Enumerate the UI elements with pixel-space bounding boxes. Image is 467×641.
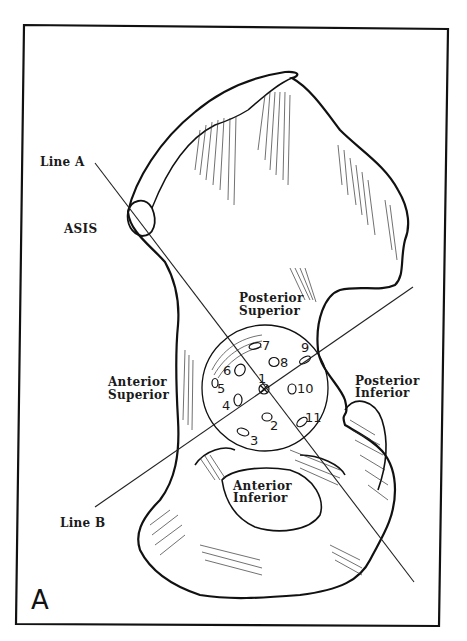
portal-10-label: 10 <box>297 381 314 396</box>
portal-8-label: 8 <box>280 355 288 370</box>
line-b-label: Line B <box>60 516 105 530</box>
portal-7-label: 7 <box>262 338 270 353</box>
portal-3-marker <box>236 427 250 438</box>
anterior-superior-label-1: Anterior <box>107 375 167 389</box>
acetabulum-diagram: 1 2 3 4 5 6 7 8 9 10 11 Line A ASIS Post… <box>0 0 467 641</box>
anterior-superior-label-2: Superior <box>108 388 169 402</box>
line-a <box>95 163 414 582</box>
portal-4-label: 4 <box>222 398 230 413</box>
posterior-superior-label-1: Posterior <box>239 291 304 305</box>
anterior-inferior-label-2: Inferior <box>233 491 288 505</box>
portal-4-marker <box>234 394 242 406</box>
portal-9-marker <box>298 354 311 365</box>
posterior-superior-label-2: Superior <box>239 304 300 318</box>
portal-2-label: 2 <box>270 418 278 433</box>
posterior-inferior-label-2: Inferior <box>355 386 410 400</box>
portal-11-label: 11 <box>305 410 322 425</box>
panel-label: A <box>31 585 49 615</box>
asis-label: ASIS <box>63 222 97 236</box>
portal-9-label: 9 <box>301 340 309 355</box>
line-a-label: Line A <box>40 155 85 169</box>
portal-6-label: 6 <box>223 363 231 378</box>
portal-6-marker <box>233 362 248 377</box>
portal-7-marker <box>248 342 261 351</box>
portal-5-label: 5 <box>217 381 225 396</box>
portal-3-label: 3 <box>250 433 258 448</box>
portal-8-marker <box>269 358 279 367</box>
portal-10-marker <box>288 384 296 394</box>
portal-1-label: 1 <box>258 371 266 386</box>
